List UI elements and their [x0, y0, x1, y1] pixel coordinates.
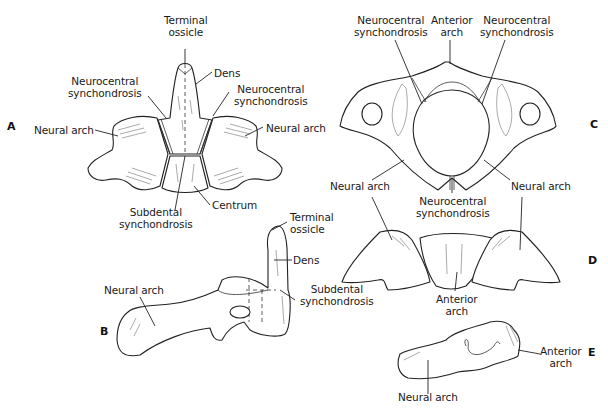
panel-e-marker: E — [588, 346, 596, 359]
panel-d-marker: D — [588, 254, 597, 267]
label-a-terminal-ossicle: Terminal ossicle — [164, 14, 208, 38]
vertebra-drawings — [0, 0, 608, 412]
panel-e-drawing — [398, 321, 540, 394]
label-b-neural-arch: Neural arch — [104, 284, 164, 296]
panel-c-drawing — [340, 40, 556, 193]
anatomy-figure: A Terminal ossicle Dens Neurocentral syn… — [0, 0, 608, 412]
panel-a-marker: A — [7, 120, 16, 133]
panel-b-marker: B — [100, 325, 108, 338]
label-a-neurocentral-right: Neurocentral synchondrosis — [234, 83, 308, 107]
label-e-anterior-arch: Anterior arch — [540, 345, 582, 369]
label-c-anterior-arch: Anterior arch — [431, 14, 473, 38]
label-c-neural-arch-left: Neural arch — [330, 180, 390, 192]
label-a-neural-arch-right: Neural arch — [266, 122, 326, 134]
label-c-neural-arch-right: Neural arch — [511, 180, 571, 192]
label-a-centrum: Centrum — [212, 199, 257, 211]
panel-a-drawing — [88, 49, 282, 210]
label-a-dens: Dens — [214, 67, 240, 79]
panel-c-marker: C — [590, 118, 598, 131]
label-e-neural-arch: Neural arch — [398, 391, 458, 403]
label-a-neural-arch-left: Neural arch — [34, 124, 94, 136]
label-c-neurocentral-bottom: Neurocentral synchondrosis — [416, 195, 490, 219]
label-a-subdental: Subdental synchondrosis — [119, 206, 193, 230]
label-b-terminal-ossicle: Terminal ossicle — [290, 211, 334, 235]
label-d-anterior-arch: Anterior arch — [436, 293, 478, 317]
label-c-neurocentral-left: Neurocentral synchondrosis — [354, 14, 428, 38]
label-b-dens: Dens — [293, 254, 319, 266]
label-b-subdental: Subdental synchondrosis — [300, 283, 374, 307]
label-c-neurocentral-right: Neurocentral synchondrosis — [480, 14, 554, 38]
label-a-neurocentral-left: Neurocentral synchondrosis — [68, 75, 142, 99]
